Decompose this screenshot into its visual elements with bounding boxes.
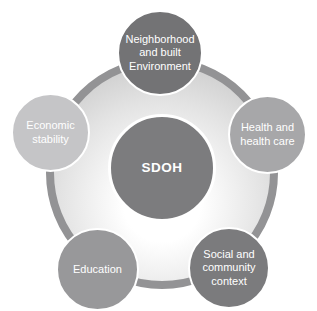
node-sdoh-circle: SDOH	[108, 114, 216, 222]
node-economic-label: Economic stability	[26, 119, 74, 145]
node-health-circle: Health and health care	[228, 95, 307, 174]
sdoh-diagram: Neighborhood and built Environment Econo…	[0, 0, 317, 311]
node-health-label: Health and health care	[240, 121, 294, 147]
node-neighborhood-circle: Neighborhood and built Environment	[117, 10, 203, 96]
node-sdoh-label: SDOH	[141, 160, 182, 176]
node-education-circle: Education	[56, 228, 139, 311]
node-neighborhood-label: Neighborhood and built Environment	[125, 33, 194, 73]
node-economic-circle: Economic stability	[11, 93, 90, 172]
node-social-circle: Social and community context	[188, 227, 270, 309]
node-education-label: Education	[73, 263, 122, 276]
node-social-label: Social and community context	[202, 248, 255, 288]
